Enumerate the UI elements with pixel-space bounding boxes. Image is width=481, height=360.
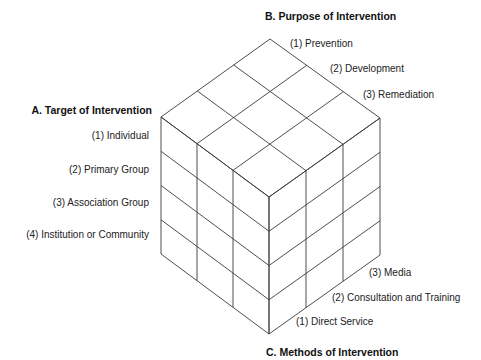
top-face-line (197, 91, 306, 171)
axis-c-item-1: (1) Direct Service (296, 316, 373, 328)
top-face-line (197, 65, 307, 143)
axis-b-item-3: (3) Remediation (363, 89, 434, 101)
left-face-line (161, 254, 269, 334)
axis-a-item-2: (2) Primary Group (69, 164, 149, 176)
axis-b-item-2: (2) Development (330, 63, 404, 75)
axis-a-title: A. Target of Intervention (31, 104, 152, 116)
left-face-line (161, 186, 269, 266)
top-face-line (161, 39, 270, 117)
intervention-cube (0, 0, 481, 360)
top-face-line (233, 92, 343, 171)
axis-b-title: B. Purpose of Intervention (265, 10, 396, 22)
axis-c-title: C. Methods of Intervention (266, 346, 398, 358)
axis-b-item-1: (1) Prevention (290, 38, 353, 50)
top-face-line (234, 65, 343, 144)
left-face-line (161, 151, 269, 231)
axis-a-item-3: (3) Association Group (53, 197, 149, 209)
left-face-line (161, 117, 269, 197)
axis-a-item-4: (4) Institution or Community (26, 229, 149, 241)
axis-a-item-1: (1) Individual (92, 130, 149, 142)
right-face-line (269, 118, 380, 197)
right-face-line (269, 152, 380, 231)
top-face-line (270, 39, 380, 118)
left-face-line (161, 220, 269, 300)
axis-c-item-2: (2) Consultation and Training (332, 292, 460, 304)
axis-c-item-3: (3) Media (369, 267, 411, 279)
right-face-line (269, 221, 380, 300)
right-face-line (269, 187, 380, 266)
